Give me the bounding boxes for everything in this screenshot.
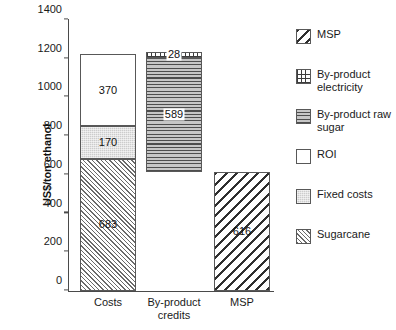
- grid-pattern-swatch: [296, 69, 311, 84]
- y-axis-tick-mark: [64, 173, 69, 174]
- bar-segment-value-label: 170: [98, 137, 118, 148]
- bar-segment-value-label: 683: [98, 219, 118, 230]
- bar-segment-value-label: 28: [167, 49, 181, 60]
- y-axis-tick-label: 1400: [38, 4, 68, 15]
- y-axis-tick-mark: [64, 212, 69, 213]
- y-axis-tick-mark: [64, 57, 69, 58]
- plot-area: 0200400600800100012001400683170370589286…: [68, 20, 272, 291]
- legend-item-label-line: ROI: [317, 148, 337, 161]
- y-axis-tick-label: 400: [44, 197, 68, 208]
- gray-fill-swatch: [296, 189, 311, 204]
- y-axis-tick-mark: [64, 289, 69, 290]
- white-fill-swatch: [296, 149, 311, 164]
- bar-by-product-credits: 58928: [146, 20, 202, 291]
- x-axis-category-label-line: credits: [126, 309, 222, 322]
- legend-item[interactable]: By-product rawsugar: [296, 108, 396, 138]
- horizontal-lines-swatch: [296, 109, 311, 124]
- diagonal-hatch-coarse-swatch: [296, 29, 311, 44]
- x-axis-category-label-line: MSP: [194, 296, 290, 309]
- bar-segment-value-label: 616: [232, 226, 252, 237]
- bar-segment-fixed-costs: 170: [80, 126, 136, 159]
- y-axis-tick-mark: [64, 18, 69, 19]
- legend-item[interactable]: Fixed costs: [296, 188, 396, 218]
- y-axis-tick-mark: [64, 251, 69, 252]
- legend-item-label: Fixed costs: [317, 188, 373, 201]
- legend-item-label-line: electricity: [317, 81, 370, 94]
- legend-item-label: MSP: [317, 28, 341, 41]
- legend-item-label-line: Sugarcane: [317, 228, 370, 241]
- legend-item-label-line: By-product raw: [317, 108, 391, 121]
- legend-item[interactable]: ROI: [296, 148, 396, 178]
- bar-msp: 616: [214, 20, 270, 291]
- y-axis-tick-label: 600: [44, 158, 68, 169]
- legend-item-label: By-product rawsugar: [317, 108, 391, 133]
- legend-item-label-line: Fixed costs: [317, 188, 373, 201]
- legend-item-label-line: sugar: [317, 121, 391, 134]
- bar-segment-msp: 616: [214, 172, 270, 291]
- y-axis-tick-label: 1200: [38, 42, 68, 53]
- legend-item-label: Sugarcane: [317, 228, 370, 241]
- bar-segment-value-label: 589: [164, 109, 184, 120]
- bar-segment-value-label: 370: [98, 85, 118, 96]
- diagonal-hatch-fine-swatch: [296, 229, 311, 244]
- y-axis-tick-label: 800: [44, 120, 68, 131]
- bar-segment-by-product-raw-sugar: 589: [146, 58, 202, 172]
- legend-item[interactable]: MSP: [296, 28, 396, 58]
- y-axis-tick-mark: [64, 134, 69, 135]
- bar-segment-sugarcane: 683: [80, 159, 136, 291]
- y-axis-tick-label: 200: [44, 236, 68, 247]
- legend-item-label-line: MSP: [317, 28, 341, 41]
- y-axis-tick-label: 1000: [38, 81, 68, 92]
- bar-segment-roi: 370: [80, 54, 136, 126]
- y-axis-tick-mark: [64, 96, 69, 97]
- bar-costs: 683170370: [80, 20, 136, 291]
- x-axis-category-label: MSP: [194, 296, 290, 309]
- y-axis-tick-label: 0: [56, 275, 68, 286]
- legend-item-label: By-productelectricity: [317, 68, 370, 93]
- legend-item-label-line: By-product: [317, 68, 370, 81]
- x-axis-line: [68, 291, 274, 292]
- bar-segment-by-product-electricity: 28: [146, 52, 202, 57]
- legend-item[interactable]: By-productelectricity: [296, 68, 396, 98]
- stacked-bar-chart: US$/ton ethanol 020040060080010001200140…: [0, 0, 396, 330]
- legend-item[interactable]: Sugarcane: [296, 228, 396, 258]
- chart-legend: MSPBy-productelectricityBy-product rawsu…: [296, 28, 396, 268]
- legend-item-label: ROI: [317, 148, 337, 161]
